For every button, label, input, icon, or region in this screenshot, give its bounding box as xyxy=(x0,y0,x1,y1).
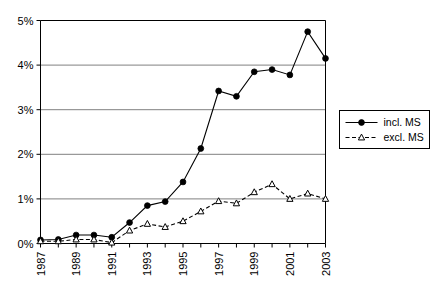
x-tick-label-1999: 1999 xyxy=(248,252,260,276)
data-point xyxy=(234,93,240,99)
y-tick-label-2: 2% xyxy=(18,148,34,160)
legend-label-2: excl. MS xyxy=(384,131,424,143)
x-tick-label-1993: 1993 xyxy=(141,252,153,276)
data-point xyxy=(198,146,204,152)
legend-label-1: incl. MS xyxy=(384,116,421,128)
data-point xyxy=(269,67,275,73)
data-point xyxy=(269,181,275,187)
data-point xyxy=(305,29,311,35)
data-point xyxy=(144,203,150,209)
data-point xyxy=(180,179,186,185)
plot-frame xyxy=(41,21,326,244)
x-tick-label-1991: 1991 xyxy=(106,252,118,276)
series-line xyxy=(41,184,326,242)
x-axis-tick-labels: 198719891991199319951997199920012003 xyxy=(35,252,332,276)
chart-container: 0%1%2%3%4%5% 198719891991199319951997199… xyxy=(0,0,435,290)
data-point xyxy=(216,88,222,94)
x-tick-label-1987: 1987 xyxy=(35,252,47,276)
y-tick-label-0: 0% xyxy=(18,238,34,250)
gridlines xyxy=(41,21,326,199)
data-point xyxy=(127,220,133,226)
y-tick-label-3: 3% xyxy=(18,104,34,116)
x-tick-label-1995: 1995 xyxy=(177,252,189,276)
data-point xyxy=(126,227,132,233)
data-point xyxy=(287,72,293,78)
data-point xyxy=(162,199,168,205)
chart-legend: incl. MSexcl. MS xyxy=(340,111,430,149)
data-point xyxy=(144,220,150,226)
data-point xyxy=(109,239,115,245)
data-point xyxy=(180,218,186,224)
series-incl-ms xyxy=(38,29,329,243)
data-point xyxy=(323,56,329,62)
x-axis-ticks xyxy=(41,244,326,248)
x-tick-label-2003: 2003 xyxy=(320,252,332,276)
x-tick-label-1989: 1989 xyxy=(70,252,82,276)
y-axis-tick-labels: 0%1%2%3%4%5% xyxy=(18,15,41,250)
data-point xyxy=(233,200,239,206)
line-chart: 0%1%2%3%4%5% 198719891991199319951997199… xyxy=(0,0,435,290)
y-tick-label-5: 5% xyxy=(18,15,34,27)
y-tick-label-1: 1% xyxy=(18,193,34,205)
y-tick-label-4: 4% xyxy=(18,59,34,71)
data-point xyxy=(198,208,204,214)
data-point xyxy=(305,190,311,196)
x-tick-label-1997: 1997 xyxy=(213,252,225,276)
x-tick-label-2001: 2001 xyxy=(284,252,296,276)
data-point xyxy=(251,69,257,75)
series-line xyxy=(41,32,326,240)
data-series-layer xyxy=(37,29,328,245)
legend-marker-1 xyxy=(359,120,365,126)
